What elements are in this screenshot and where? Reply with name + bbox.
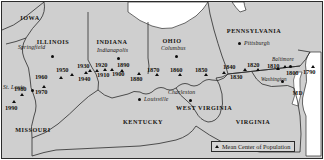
city-label: Indianapolis <box>97 47 128 53</box>
center-year-label: 1820 <box>247 61 259 68</box>
center-year-label: 1980 <box>14 85 26 92</box>
state-label: KENTUCKY <box>120 118 166 125</box>
center-year-label: 1970 <box>35 88 47 95</box>
state-label: IOWA <box>12 14 48 21</box>
center-marker <box>12 100 16 103</box>
center-marker <box>70 73 74 76</box>
city-label: Charleston <box>168 89 195 95</box>
center-year-label: 1880 <box>130 75 142 82</box>
city-label: Springfield <box>18 44 45 50</box>
center-year-label: 1810 <box>267 62 279 69</box>
center-marker <box>222 71 226 74</box>
center-marker <box>256 68 260 71</box>
triangle-marker-icon <box>215 145 219 148</box>
center-marker <box>88 69 92 72</box>
center-year-label: 1870 <box>147 66 159 73</box>
center-year-label: 1960 <box>35 73 47 80</box>
center-year-label: 1850 <box>195 66 207 73</box>
map-legend: Mean Center of Population <box>211 141 295 152</box>
center-marker <box>95 69 99 72</box>
center-marker <box>178 73 182 76</box>
center-marker <box>155 73 159 76</box>
state-label: MD <box>290 90 306 97</box>
center-marker <box>20 93 24 96</box>
state-label: OHIO <box>156 37 188 44</box>
center-year-label: 1890 <box>117 61 129 68</box>
state-label: INDIANA <box>92 38 132 45</box>
center-marker <box>243 68 247 71</box>
center-year-label: 1900 <box>112 70 124 77</box>
center-marker <box>204 73 208 76</box>
center-year-label: 1920 <box>95 61 107 68</box>
center-year-label: 1800 <box>286 69 298 76</box>
center-year-label: 1990 <box>5 104 17 111</box>
center-marker <box>283 65 287 68</box>
state-label: VIRGINIA <box>230 118 276 125</box>
city-label: Columbus <box>161 45 186 51</box>
center-marker <box>59 76 63 79</box>
center-year-label: 1940 <box>78 75 90 82</box>
state-label: WEST VIRGINIA <box>176 104 214 112</box>
state-label: MISSOURI <box>12 126 54 133</box>
center-year-label: 1860 <box>170 66 182 73</box>
center-year-label: 1790 <box>303 68 315 75</box>
center-year-label: 1950 <box>56 66 68 73</box>
state-label: PENNSYLVANIA <box>224 27 284 34</box>
city-label: Louisville <box>144 96 168 102</box>
center-marker <box>84 71 88 74</box>
population-center-map: IOWA ILLINOIS INDIANA OHIO PENNSYLVANIA … <box>0 0 324 160</box>
center-year-label: 1910 <box>97 71 109 78</box>
center-year-label: 1830 <box>230 73 242 80</box>
center-year-label: 1930 <box>77 62 89 69</box>
city-label: Pittsburgh <box>244 40 270 46</box>
legend-label: Mean Center of Population <box>222 143 290 150</box>
center-year-label: 1840 <box>223 63 235 70</box>
